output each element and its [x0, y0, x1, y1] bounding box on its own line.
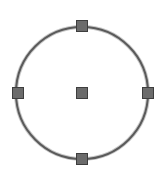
grip-quadrant-left-icon[interactable]	[13, 88, 24, 99]
circle-with-grips[interactable]	[0, 0, 165, 180]
grip-quadrant-right-icon[interactable]	[143, 88, 154, 99]
grip-quadrant-top-icon[interactable]	[77, 21, 88, 32]
drawing-canvas[interactable]	[0, 0, 165, 180]
grips-layer	[13, 21, 154, 165]
grip-quadrant-bottom-icon[interactable]	[77, 154, 88, 165]
grip-center-icon[interactable]	[77, 88, 88, 99]
